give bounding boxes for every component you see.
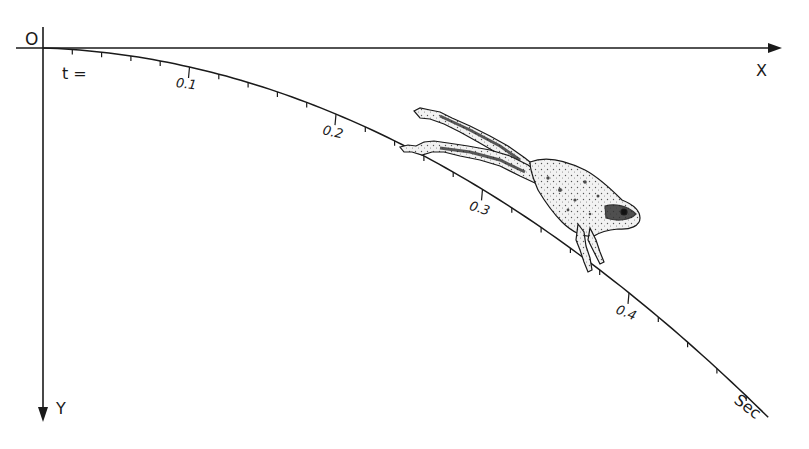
major-tick	[482, 189, 483, 200]
frog-lower-leg-icon	[400, 141, 540, 183]
frog-body-icon	[530, 159, 640, 236]
y-axis	[38, 27, 48, 422]
x-axis	[16, 43, 782, 53]
major-tick	[628, 293, 629, 304]
tick-label: 0.3	[468, 198, 492, 218]
y-axis-arrow-icon	[38, 407, 48, 422]
x-axis-label: X	[756, 61, 767, 80]
origin-label: O	[25, 29, 38, 49]
time-ticks	[72, 50, 746, 401]
trajectory-diagram: O X Y t = 0.10.20.30.4 Sec	[0, 0, 809, 449]
tick-label: 0.2	[321, 122, 344, 141]
major-tick	[335, 114, 336, 125]
frog-illustration	[400, 108, 640, 272]
time-unit-label: Sec	[731, 390, 765, 423]
y-axis-label: Y	[55, 399, 66, 418]
tick-label: 0.4	[614, 302, 639, 323]
x-axis-arrow-icon	[768, 43, 782, 53]
time-prefix-label: t =	[62, 64, 87, 83]
trajectory-curve	[43, 48, 768, 417]
tick-label: 0.1	[175, 75, 197, 92]
